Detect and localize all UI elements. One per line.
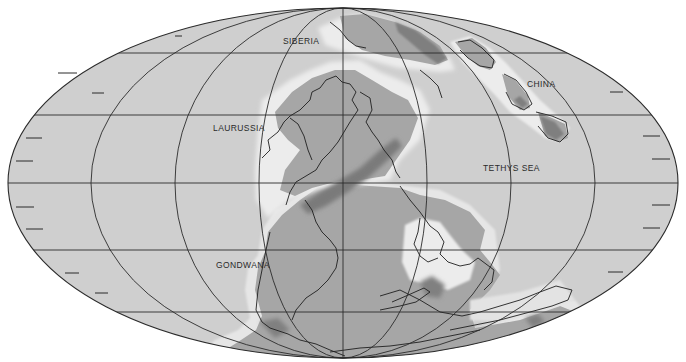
label-gondwana: GONDWANA [216,260,270,270]
label-siberia: SIBERIA [283,36,319,46]
label-laurussia: LAURUSSIA [213,123,265,133]
paleogeographic-world-map: SIBERIA CHINA LAURUSSIA TETHYS SEA GONDW… [0,0,686,362]
label-china: CHINA [527,79,555,89]
label-tethys-sea: TETHYS SEA [483,163,540,173]
